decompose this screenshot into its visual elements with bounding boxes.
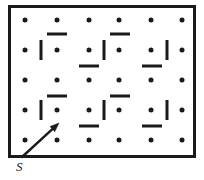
maze-node-dot (149, 18, 154, 23)
maze-wall-vertical (103, 40, 106, 60)
maze-node-dot (23, 108, 28, 113)
maze-node-dot (117, 108, 122, 113)
maze-figure: S (0, 0, 204, 180)
maze-node-dot (55, 108, 60, 113)
maze-wall-vertical (40, 100, 43, 120)
maze-node-dot (55, 138, 60, 143)
maze-wall-horizontal (110, 33, 130, 36)
maze-node-dot (23, 18, 28, 23)
maze-node-dot (117, 78, 122, 83)
maze-wall-horizontal (79, 65, 99, 68)
maze-node-dot (55, 48, 60, 53)
maze-node-dot (87, 48, 92, 53)
maze-node-dot (180, 138, 185, 143)
maze-node-dot (117, 48, 122, 53)
maze-node-dot (117, 18, 122, 23)
maze-node-dot (23, 48, 28, 53)
maze-wall-horizontal (142, 125, 162, 128)
maze-node-dot (23, 138, 28, 143)
maze-node-dot (180, 18, 185, 23)
maze-node-dot (55, 78, 60, 83)
maze-node-dot (87, 78, 92, 83)
maze-node-dot (55, 18, 60, 23)
maze-node-dot (149, 48, 154, 53)
maze-node-dot (180, 108, 185, 113)
start-label: S (16, 160, 23, 173)
maze-node-dot (23, 78, 28, 83)
maze-node-dot (149, 78, 154, 83)
maze-wall-vertical (40, 40, 43, 60)
maze-node-dot (180, 48, 185, 53)
maze-wall-horizontal (47, 33, 67, 36)
maze-node-dot (87, 138, 92, 143)
maze-node-dot (180, 78, 185, 83)
maze-wall-horizontal (110, 95, 130, 98)
maze-wall-vertical (103, 100, 106, 120)
maze-node-dot (149, 108, 154, 113)
maze-wall-horizontal (142, 65, 162, 68)
maze-node-dot (117, 138, 122, 143)
maze-node-dot (149, 138, 154, 143)
maze-outer-border (8, 5, 196, 158)
maze-wall-vertical (166, 40, 169, 60)
maze-node-dot (87, 18, 92, 23)
maze-wall-horizontal (79, 125, 99, 128)
maze-node-dot (87, 108, 92, 113)
maze-wall-vertical (166, 100, 169, 120)
maze-wall-horizontal (47, 95, 67, 98)
